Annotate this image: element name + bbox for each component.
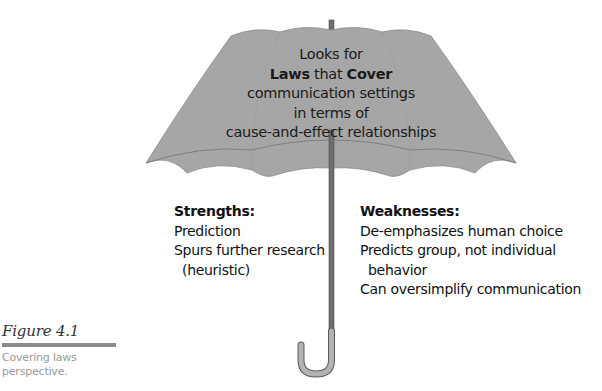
weaknesses-heading: Weaknesses: xyxy=(360,202,581,222)
canopy-line-3: communication settings xyxy=(200,84,462,104)
caption-line-1: Covering laws xyxy=(2,351,122,365)
canopy-line-2: Laws that Cover xyxy=(200,65,462,85)
weakness-item: Can oversimplify communication xyxy=(360,280,581,300)
figure-caption: Figure 4.1 Covering laws perspective. xyxy=(2,322,122,379)
strengths-heading: Strengths: xyxy=(174,202,325,222)
canopy-line-1: Looks for xyxy=(200,45,462,65)
weakness-item: De-emphasizes human choice xyxy=(360,222,581,242)
laws-bold: Laws xyxy=(270,66,310,82)
strength-item: Spurs further research xyxy=(174,241,325,261)
strength-item: Prediction xyxy=(174,222,325,242)
canopy-line-2-mid: that xyxy=(310,66,347,82)
strengths-list: Strengths: Prediction Spurs further rese… xyxy=(174,202,325,280)
canopy-text: Looks for Laws that Cover communication … xyxy=(200,45,462,143)
weakness-item: Predicts group, not individual xyxy=(360,241,581,261)
figure-label: Figure 4.1 xyxy=(2,322,122,340)
weakness-item-continuation: behavior xyxy=(360,261,581,281)
canopy-line-5: cause-and-effect relationships xyxy=(200,123,462,143)
caption-line-2: perspective. xyxy=(2,365,122,379)
caption-rule xyxy=(2,343,116,347)
caption-description: Covering laws perspective. xyxy=(2,351,122,379)
strength-item-continuation: (heuristic) xyxy=(174,261,325,281)
umbrella-handle-fill xyxy=(301,331,332,374)
canopy-line-4: in terms of xyxy=(200,104,462,124)
umbrella-shaft xyxy=(329,130,334,332)
cover-bold: Cover xyxy=(347,66,393,82)
weaknesses-list: Weaknesses: De-emphasizes human choice P… xyxy=(360,202,581,300)
